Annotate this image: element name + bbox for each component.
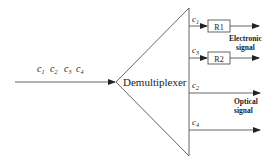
svg-text:c3: c3 [64,63,71,75]
demultiplexer-block: Demultiplexer [116,8,189,156]
svg-text:Electronic: Electronic [229,34,262,43]
output-c4: c4 [189,117,260,130]
svg-text:c1: c1 [37,63,44,75]
svg-text:c4: c4 [192,117,199,128]
svg-text:c2: c2 [50,63,57,75]
demultiplexer-diagram: c1 c2 c3 c4 Demultiplexer c1 R1 c3 R2 El… [0,0,280,164]
output-c2: c2 [189,80,260,93]
svg-text:c3: c3 [192,45,199,56]
output-c1: c1 R1 [189,14,259,32]
svg-text:c2: c2 [192,80,199,91]
input-channel-labels: c1 c2 c3 c4 [37,63,83,75]
svg-text:c1: c1 [192,14,199,25]
electronic-signal-label: Electronic signal [229,34,262,52]
receiver-r2-label: R2 [214,55,223,64]
demux-label: Demultiplexer [123,76,187,88]
svg-text:signal: signal [234,106,253,115]
svg-text:c4: c4 [76,63,83,75]
svg-text:Optical: Optical [234,97,258,106]
optical-signal-label: Optical signal [234,97,258,115]
input-signal: c1 c2 c3 c4 [15,63,115,82]
receiver-r1-label: R1 [214,23,223,32]
svg-text:signal: signal [236,43,255,52]
